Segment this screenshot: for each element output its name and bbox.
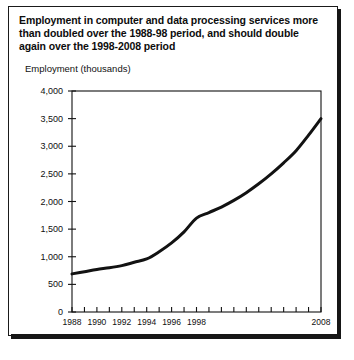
x-axis-tick-labels: 1988199019921994199619982008	[9, 317, 339, 333]
y-axis-tick-label: 2,500	[29, 169, 63, 179]
y-axis-tick-label: 4,000	[29, 86, 63, 96]
y-axis-tick-label: 500	[29, 279, 63, 289]
x-axis-tick-label: 1990	[87, 317, 106, 327]
x-axis-tick-label: 1996	[162, 317, 181, 327]
y-axis-tick-label: 1,500	[29, 224, 63, 234]
x-axis-tick-label: 2008	[312, 317, 331, 327]
y-axis-tick-label: 3,500	[29, 114, 63, 124]
figure-frame: Employment in computer and data processi…	[8, 6, 338, 336]
y-axis-tick-label: 2,000	[29, 197, 63, 207]
x-axis-tick-label: 1994	[137, 317, 156, 327]
y-axis-tick-label: 1,000	[29, 252, 63, 262]
figure-bottom-edge	[11, 334, 341, 339]
y-axis-tick-label: 0	[29, 307, 63, 317]
y-axis-tick-labels: 05001,0001,5002,0002,5003,0003,5004,000	[29, 7, 63, 337]
y-axis-tick-label: 3,000	[29, 141, 63, 151]
x-axis-tick-label: 1988	[63, 317, 82, 327]
x-axis-tick-label: 1992	[112, 317, 131, 327]
figure-right-edge	[337, 9, 341, 339]
x-axis-tick-label: 1998	[187, 317, 206, 327]
